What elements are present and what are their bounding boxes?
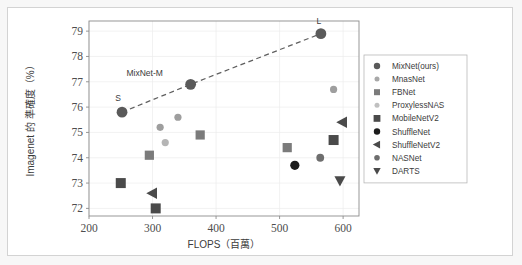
x-axis-title: FLOPS（百萬） bbox=[188, 238, 261, 250]
legend-item-label: ShuffleNet bbox=[392, 128, 431, 137]
legend-item-label: NASNet bbox=[392, 154, 422, 163]
y-axis-title: Imagenet 的 準確度（%） bbox=[24, 60, 36, 176]
y-axis-tick-label: 75 bbox=[72, 126, 84, 138]
legend-marker-icon bbox=[374, 128, 380, 134]
data-point-marker bbox=[330, 86, 337, 93]
data-point-marker bbox=[290, 161, 299, 170]
legend-item-label: DARTS bbox=[392, 167, 420, 176]
y-axis-tick-label: 72 bbox=[72, 202, 84, 214]
scatter-chart-figure: 7273747576777879200300400500600 SMixNet-… bbox=[8, 8, 514, 257]
legend-marker-icon bbox=[374, 63, 380, 69]
y-axis-tick-label: 74 bbox=[72, 152, 84, 164]
data-point-marker bbox=[283, 143, 292, 152]
data-point-marker bbox=[315, 28, 326, 39]
data-point-marker bbox=[162, 139, 169, 146]
y-axis-tick-label: 76 bbox=[72, 101, 84, 113]
axes-group bbox=[86, 21, 359, 219]
data-point-marker bbox=[116, 178, 126, 188]
y-axis-tick-label: 79 bbox=[72, 25, 84, 37]
y-axis-tick-label: 73 bbox=[72, 177, 84, 189]
x-axis-tick-label: 300 bbox=[144, 222, 162, 234]
data-points-group bbox=[116, 28, 347, 213]
data-point-marker bbox=[185, 79, 196, 90]
screenshot-root: 7273747576777879200300400500600 SMixNet-… bbox=[0, 0, 522, 265]
gridlines-group bbox=[89, 21, 359, 216]
data-point-marker bbox=[151, 203, 161, 213]
legend-marker-icon bbox=[374, 89, 380, 95]
data-point-marker bbox=[329, 135, 339, 145]
x-axis-tick-label: 400 bbox=[207, 222, 225, 234]
point-annotation-label: S bbox=[115, 93, 121, 103]
data-point-marker bbox=[316, 154, 324, 162]
x-axis-tick-label: 600 bbox=[334, 222, 352, 234]
data-point-marker bbox=[334, 176, 345, 186]
x-axis-tick-label: 200 bbox=[80, 222, 98, 234]
y-axis-tick-label: 78 bbox=[72, 50, 84, 62]
legend-item-label: MobileNetV2 bbox=[392, 114, 439, 123]
y-axis-tick-label: 77 bbox=[72, 76, 84, 88]
legend-group: MixNet(ours)MnasNetFBNetProxylessNASMobi… bbox=[364, 55, 467, 183]
point-annotation-label: L bbox=[317, 16, 322, 26]
figure-card: 7273747576777879200300400500600 SMixNet-… bbox=[7, 7, 513, 256]
data-point-marker bbox=[174, 114, 181, 121]
data-point-marker bbox=[146, 187, 157, 199]
legend-item-label: FBNet bbox=[392, 88, 416, 97]
data-point-marker bbox=[336, 117, 347, 129]
legend-marker-icon bbox=[374, 115, 381, 122]
legend-item-label: ShuffleNetV2 bbox=[392, 141, 441, 150]
data-point-marker bbox=[145, 151, 154, 160]
axis-titles-group: FLOPS（百萬）Imagenet 的 準確度（%） bbox=[24, 60, 260, 250]
legend-marker-icon bbox=[374, 155, 380, 161]
chart-canvas: 7273747576777879200300400500600 SMixNet-… bbox=[8, 8, 514, 257]
legend-item-label: MnasNet bbox=[392, 75, 425, 84]
annotations-group: SMixNet-ML bbox=[115, 16, 321, 104]
data-point-marker bbox=[117, 107, 128, 118]
legend-marker-icon bbox=[375, 77, 380, 82]
x-axis-tick-label: 500 bbox=[271, 222, 289, 234]
legend-item-label: ProxylessNAS bbox=[392, 101, 445, 110]
plot-frame bbox=[89, 21, 359, 216]
point-annotation-label: MixNet-M bbox=[126, 68, 162, 78]
legend-marker-icon bbox=[375, 103, 380, 108]
data-point-marker bbox=[157, 124, 164, 131]
data-point-marker bbox=[196, 130, 205, 139]
legend-item-label: MixNet(ours) bbox=[392, 62, 439, 71]
